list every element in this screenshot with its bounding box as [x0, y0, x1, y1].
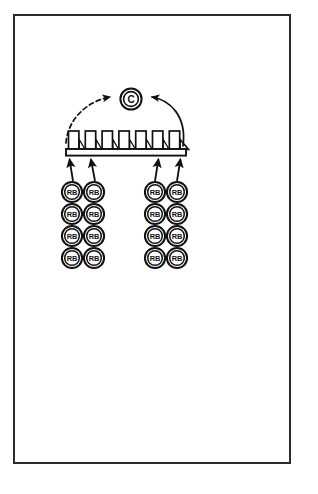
rb-unit-label: RB [67, 210, 77, 219]
rb-unit: RB [62, 204, 82, 224]
rb-unit-label: RB [67, 232, 77, 241]
rb-unit: RB [167, 204, 187, 224]
conveyor-bottle [153, 131, 163, 149]
conveyor-bottle [119, 131, 129, 149]
conveyor-bottle [85, 131, 95, 149]
rb-unit-label: RB [67, 188, 77, 197]
rb-unit-label: RB [172, 232, 182, 241]
feed-arrow-3 [155, 160, 158, 182]
rb-unit: RB [62, 226, 82, 246]
rb-unit-label: RB [150, 188, 160, 197]
conveyor-wedge [130, 140, 136, 150]
rb-unit-label: RB [172, 210, 182, 219]
rb-unit: RB [84, 204, 104, 224]
rb-unit: RB [84, 226, 104, 246]
feed-arrow-2 [91, 160, 95, 182]
rb-unit-label: RB [172, 254, 182, 263]
left-unit-group: RB RB RB RB RB [62, 182, 104, 268]
conveyor-bottle [69, 131, 79, 149]
conveyor-bottle [102, 131, 112, 149]
rb-unit-label: RB [89, 232, 99, 241]
conveyor-wedge [147, 140, 153, 150]
rb-unit: RB [84, 182, 104, 202]
rb-unit-label: RB [150, 254, 160, 263]
conveyor-wedge [79, 140, 85, 150]
rb-unit-label: RB [67, 254, 77, 263]
rb-unit-label: RB [89, 210, 99, 219]
rb-unit: RB [145, 226, 165, 246]
rb-unit: RB [167, 248, 187, 268]
rb-unit-label: RB [89, 254, 99, 263]
conveyor-discharge-wedge [180, 140, 189, 150]
diagram-page: C [0, 0, 318, 494]
rb-unit: RB [167, 226, 187, 246]
rb-unit-label: RB [150, 210, 160, 219]
conveyor-assembly [66, 131, 189, 156]
rb-unit: RB [145, 204, 165, 224]
feed-arrow-group [70, 160, 181, 182]
conveyor-bottle [169, 131, 179, 149]
rb-unit: RB [167, 182, 187, 202]
capper-node-label: C [127, 94, 134, 105]
conveyor-bottle [136, 131, 146, 149]
process-flow-diagram: C [0, 0, 318, 494]
capper-node: C [120, 88, 141, 109]
rb-unit: RB [145, 248, 165, 268]
conveyor-rail [66, 149, 186, 156]
conveyor-wedge [113, 140, 119, 150]
rb-unit: RB [62, 248, 82, 268]
rb-unit: RB [84, 248, 104, 268]
feed-arrow-1 [70, 160, 73, 182]
right-unit-group: RB RB RB RB RB [145, 182, 187, 268]
feed-arrow-4 [177, 160, 180, 182]
conveyor-wedge [163, 140, 169, 150]
conveyor-wedge [96, 140, 102, 150]
rb-unit: RB [145, 182, 165, 202]
rb-unit-label: RB [89, 188, 99, 197]
rb-unit: RB [62, 182, 82, 202]
rb-unit-label: RB [150, 232, 160, 241]
rb-unit-label: RB [172, 188, 182, 197]
